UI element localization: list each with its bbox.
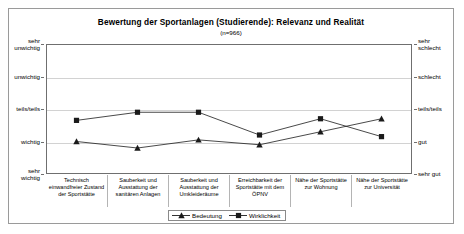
data-point-marker — [236, 213, 241, 218]
chart-legend: BedeutungWirklichkeit — [168, 210, 286, 221]
y-axis-label-line: teils/teils — [418, 105, 462, 112]
y-axis-label: schlecht — [414, 73, 462, 80]
data-point-marker — [378, 116, 384, 122]
x-axis-category-line: Ausstattung der — [169, 184, 229, 191]
data-point-marker — [135, 110, 140, 115]
x-axis-category-label: Nähe der Sportstättezur Universität — [351, 175, 412, 207]
y-axis-label: gut — [414, 138, 462, 145]
x-axis-category-line: Erreichbarkeit der — [230, 177, 290, 184]
legend-item[interactable]: Bedeutung — [172, 212, 222, 219]
y-axis-label-line: gut — [418, 138, 462, 145]
y-axis-label-line: unwichtig — [0, 73, 40, 80]
x-axis-category-line: ÖPNV — [230, 191, 290, 198]
legend-marker-square-icon — [229, 212, 247, 219]
axis-tick — [41, 142, 44, 143]
axis-tick — [414, 142, 417, 143]
data-point-marker — [74, 118, 79, 123]
y-axis-label-line: sehr — [0, 167, 40, 174]
axis-tick — [414, 44, 417, 45]
chart-subtitle: (n=966) — [9, 29, 453, 36]
series-line — [77, 112, 382, 136]
x-axis-category-line: Ausstattung der — [108, 184, 168, 191]
y-axis-label-line: sehr — [418, 37, 462, 44]
axis-tick — [414, 77, 417, 78]
legend-item[interactable]: Wirklichkeit — [229, 212, 280, 219]
x-axis-category-line: Nähe der Sportstätte — [352, 177, 412, 184]
x-axis-category-line: sanitären Anlagen — [108, 191, 168, 198]
y-axis-label-line: schlecht — [418, 44, 462, 51]
axis-tick — [41, 109, 44, 110]
x-axis-categories: Technischeinwandfreier Zustandder Sports… — [46, 175, 412, 207]
legend-marker-triangle-icon — [172, 212, 190, 219]
axis-tick — [41, 174, 44, 175]
x-axis-category-line: Sauberkeit und — [108, 177, 168, 184]
axis-tick — [414, 109, 417, 110]
x-axis-category-line: Technisch — [46, 177, 107, 184]
y-axis-label: sehrwichtig — [0, 167, 44, 182]
y-axis-label: teils/teils — [414, 105, 462, 112]
x-axis-category-line: der Sportstätte — [46, 191, 107, 198]
x-axis-category-line: Umkleideräume — [169, 191, 229, 198]
x-axis-category-label: Technischeinwandfreier Zustandder Sports… — [46, 175, 107, 207]
chart-title: Bewertung der Sportanlagen (Studierende)… — [9, 17, 453, 27]
x-axis-category-line: zur Universität — [352, 184, 412, 191]
y-axis-left: sehrunwichtigunwichtigteils/teilswichtig… — [0, 44, 44, 174]
y-axis-label-line: unwichtig — [0, 44, 40, 51]
data-point-marker — [178, 212, 184, 218]
legend-label: Bedeutung — [192, 212, 222, 219]
data-point-marker — [379, 134, 384, 139]
y-axis-label: wichtig — [0, 138, 44, 145]
x-axis-category-label: Erreichbarkeit derSportstätte mit demÖPN… — [229, 175, 290, 207]
y-axis-label-line: teils/teils — [0, 105, 40, 112]
x-axis-category-line: Nähe der Sportstätte — [291, 177, 351, 184]
data-point-marker — [318, 116, 323, 121]
data-point-marker — [195, 137, 201, 143]
x-axis-category-line: einwandfreier Zustand — [46, 184, 107, 191]
y-axis-label: unwichtig — [0, 73, 44, 80]
y-axis-label: sehrunwichtig — [0, 37, 44, 52]
y-axis-label-line: wichtig — [0, 174, 40, 181]
x-axis-category-label: Sauberkeit undAusstattung dersanitären A… — [107, 175, 168, 207]
series-layer — [46, 44, 412, 174]
legend-label: Wirklichkeit — [249, 212, 280, 219]
axis-tick — [41, 44, 44, 45]
x-axis-category-line: Sportstätte mit dem — [230, 184, 290, 191]
data-point-marker — [73, 138, 79, 144]
y-axis-label-line: sehr — [0, 37, 40, 44]
x-axis-category-line: zur Wohnung — [291, 184, 351, 191]
y-axis-label: sehrschlecht — [414, 37, 462, 52]
x-axis-category-label: Nähe der Sportstättezur Wohnung — [290, 175, 351, 207]
y-axis-label-line: sehr gut — [418, 170, 462, 177]
data-point-marker — [257, 132, 262, 137]
axis-tick — [41, 77, 44, 78]
y-axis-label-line: schlecht — [418, 73, 462, 80]
y-axis-label: teils/teils — [0, 105, 44, 112]
data-point-marker — [196, 110, 201, 115]
y-axis-label-line: wichtig — [0, 138, 40, 145]
x-axis-category-label: Sauberkeit undAusstattung derUmkleideräu… — [168, 175, 229, 207]
axis-tick — [414, 174, 417, 175]
y-axis-label: sehr gut — [414, 170, 462, 177]
y-axis-right: sehrschlechtschlechtteils/teilsgutsehr g… — [414, 44, 462, 174]
x-axis-category-line: Sauberkeit und — [169, 177, 229, 184]
